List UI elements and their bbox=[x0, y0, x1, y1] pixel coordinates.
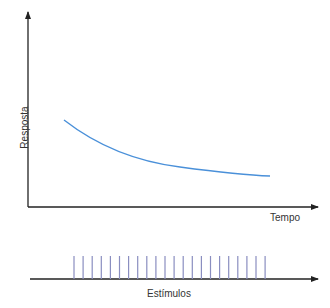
x-axis-label: Tempo bbox=[270, 212, 300, 223]
y-axis-label: Resposta bbox=[19, 98, 30, 158]
stimulus-pulses bbox=[74, 256, 265, 279]
habituation-diagram bbox=[0, 0, 330, 308]
response-curve bbox=[64, 120, 270, 176]
stimuli-axis-label: Estímulos bbox=[147, 288, 191, 299]
